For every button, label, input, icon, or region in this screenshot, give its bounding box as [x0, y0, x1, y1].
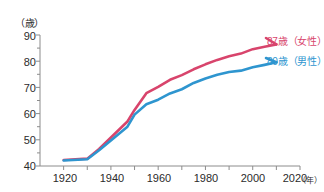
axis-lines: [40, 35, 300, 166]
y-axis-ticks: [36, 35, 40, 166]
series-label-male: 80歳（男性）: [267, 53, 324, 68]
x-axis-ticks: [64, 166, 300, 170]
life-expectancy-chart: （歳） 90 80 70 60 50 40 1920 1940 1960 198…: [0, 0, 324, 192]
series-lines: [64, 44, 277, 160]
series-line-male: [64, 62, 277, 160]
series-line-female: [64, 44, 277, 160]
plot-area: [0, 0, 324, 192]
series-label-female: 87歳（女性）: [267, 33, 324, 48]
